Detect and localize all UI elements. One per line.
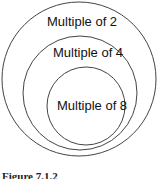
figure-caption: Figure 7.1.2 (2, 170, 58, 179)
label-multiple-of-4: Multiple of 4 (53, 45, 123, 60)
label-multiple-of-2: Multiple of 2 (47, 14, 117, 29)
label-multiple-of-8: Multiple of 8 (57, 98, 127, 113)
